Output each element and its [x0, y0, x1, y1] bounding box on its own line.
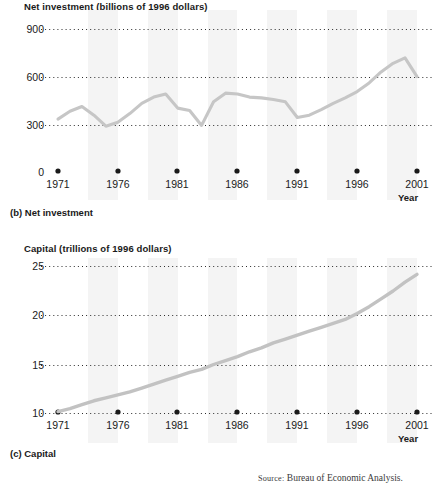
panel-b-xtick-1981: 1981	[165, 178, 188, 190]
panel-b-xtick-1986: 1986	[225, 178, 248, 190]
panel-c-x-axis-name: Year	[398, 433, 418, 444]
panel-b-ytick-900: 900	[8, 23, 44, 35]
panel-c-xtick-1976: 1976	[106, 419, 129, 431]
panel-b-ytick-300: 300	[8, 119, 44, 131]
panel-c-plot	[0, 250, 443, 492]
panel-b-ytick-600: 600	[8, 71, 44, 83]
panel-b-xtick-1991: 1991	[285, 178, 308, 190]
panel-b-caption: (b) Net investment	[10, 207, 93, 218]
panel-c-xtick-1981: 1981	[165, 419, 188, 431]
source-label: Source:	[258, 474, 284, 483]
source-note: Source: Bureau of Economic Analysis.	[258, 473, 403, 483]
panel-c-xtick-2001: 2001	[405, 419, 428, 431]
panel-c-caption: (c) Capital	[10, 448, 56, 459]
panel-c-ytick-25: 25	[8, 260, 44, 272]
panel-c-xtick-1991: 1991	[285, 419, 308, 431]
panel-b-x-axis-name: Year	[398, 192, 418, 203]
panel-b-xtick-1971: 1971	[46, 178, 69, 190]
panel-b-xtick-2001: 2001	[405, 178, 428, 190]
panel-c-xtick-1996: 1996	[345, 419, 368, 431]
panel-c-xtick-1986: 1986	[225, 419, 248, 431]
source-value: Bureau of Economic Analysis.	[284, 473, 402, 483]
panel-b-ytick-0: 0	[8, 166, 44, 178]
panel-b-xtick-1976: 1976	[106, 178, 129, 190]
panel-b-plot	[0, 0, 443, 200]
panel-c-ytick-10: 10	[8, 407, 44, 419]
panel-b-background-bands	[88, 10, 417, 200]
panel-c-xtick-1971: 1971	[46, 419, 69, 431]
panel-c-ytick-20: 20	[8, 309, 44, 321]
figure-investment-and-capital: Net investment (billions of 1996 dollars…	[0, 0, 443, 492]
panel-b-xtick-1996: 1996	[345, 178, 368, 190]
panel-c-ytick-15: 15	[8, 359, 44, 371]
